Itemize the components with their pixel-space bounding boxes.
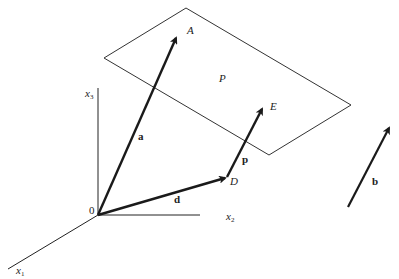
vector-b-label: b xyxy=(372,175,378,187)
x2-axis-label: x2 xyxy=(225,210,235,224)
point-a-label: A xyxy=(186,24,194,36)
origin-label: 0 xyxy=(89,204,95,216)
point-d-label: D xyxy=(229,175,238,187)
vector-d xyxy=(98,178,225,215)
x1-axis-label: x1 xyxy=(15,264,25,278)
vector-a xyxy=(98,38,176,215)
point-e-label: E xyxy=(269,100,277,112)
vector-a-label: a xyxy=(138,130,144,142)
x3-axis-label: x3 xyxy=(84,87,94,101)
vector-d-label: d xyxy=(174,193,180,205)
vector-p-label: p xyxy=(242,153,248,165)
x1-axis xyxy=(8,215,98,269)
plane-label: P xyxy=(218,72,226,84)
vector-b xyxy=(348,128,389,207)
vector-p xyxy=(227,109,262,177)
vector-diagram: P A D E a d p b 0 x3 x2 x1 xyxy=(0,0,399,279)
